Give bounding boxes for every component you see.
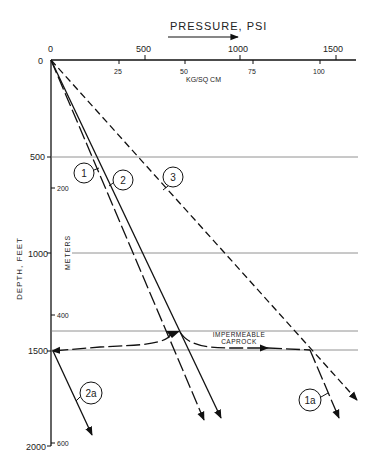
kg-axis-label: KG/SQ CM (186, 76, 221, 84)
svg-text:400: 400 (57, 312, 69, 319)
svg-text:CAPROCK: CAPROCK (221, 338, 257, 345)
svg-text:25: 25 (114, 68, 122, 75)
curve-3 (51, 60, 357, 400)
svg-text:200: 200 (57, 185, 69, 192)
svg-text:PRESSURE, PSI: PRESSURE, PSI (170, 20, 267, 32)
svg-text:2000: 2000 (26, 442, 46, 452)
svg-text:1000: 1000 (28, 249, 48, 259)
psi-tick-1000: 1000 (228, 44, 248, 54)
label-2: 2 (109, 170, 133, 190)
curve-labels: 1 2 3 1a 2a (74, 163, 328, 411)
top-axis: 0 500 1000 1500 25 50 75 100 KG/SQ CM (48, 44, 356, 84)
svg-text:1: 1 (81, 168, 87, 179)
meters-axis-label: METERS (64, 235, 71, 270)
svg-text:0: 0 (38, 56, 43, 66)
label-3: 3 (163, 167, 183, 190)
curves (51, 60, 357, 435)
psi-tick-500: 500 (136, 44, 151, 54)
svg-text:75: 75 (248, 68, 256, 75)
top-axis-title: PRESSURE, PSI (168, 20, 267, 37)
svg-text:1500: 1500 (28, 346, 48, 356)
psi-tick-1500: 1500 (323, 44, 343, 54)
label-1: 1 (74, 163, 99, 183)
svg-text:2: 2 (120, 175, 126, 186)
label-1a: 1a (299, 389, 328, 411)
svg-text:600: 600 (57, 440, 69, 447)
label-2a: 2a (76, 382, 102, 404)
svg-text:1a: 1a (304, 395, 316, 406)
caprock-annotation: IMPERMEABLE CAPROCK (213, 331, 266, 345)
svg-text:500: 500 (30, 152, 45, 162)
psi-tick-0: 0 (48, 44, 53, 54)
svg-text:3: 3 (170, 172, 176, 183)
pressure-depth-diagram: PRESSURE, PSI 0 500 1000 1500 25 50 75 1… (0, 0, 380, 470)
svg-text:IMPERMEABLE: IMPERMEABLE (213, 331, 266, 338)
svg-text:100: 100 (313, 68, 325, 75)
svg-text:2a: 2a (85, 388, 97, 399)
caprock-flow-left (52, 332, 172, 351)
svg-text:50: 50 (180, 68, 188, 75)
curve-1 (51, 60, 204, 420)
left-axis: 0 500 1000 1500 2000 DEPTH, FEET 200 400… (15, 56, 71, 452)
curve-2 (51, 60, 221, 418)
grid-lines (51, 157, 358, 350)
depth-axis-label: DEPTH, FEET (15, 237, 24, 300)
